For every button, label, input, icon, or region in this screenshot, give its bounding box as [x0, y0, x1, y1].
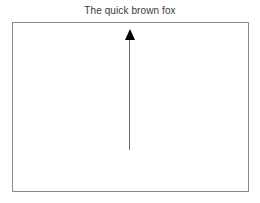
plot-area-frame [12, 22, 249, 192]
page-title: The quick brown fox [0, 4, 260, 17]
figure-canvas: The quick brown fox [0, 0, 260, 203]
